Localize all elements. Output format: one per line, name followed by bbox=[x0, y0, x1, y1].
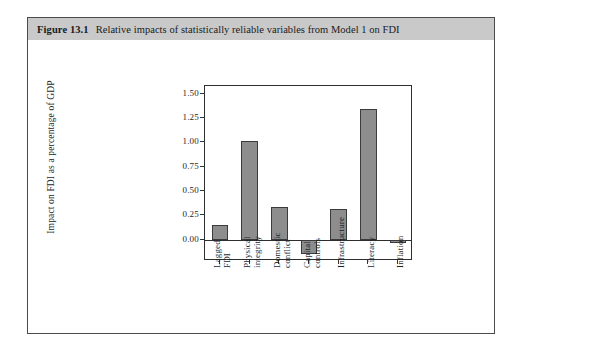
y-axis-tick-label: 1.00 bbox=[165, 136, 199, 146]
chart-axes-box bbox=[204, 85, 412, 260]
y-axis-tick-mark bbox=[200, 117, 204, 118]
y-axis-tick-mark bbox=[200, 166, 204, 167]
y-axis-tick-mark bbox=[200, 214, 204, 215]
y-axis-tick-label: 0.25 bbox=[165, 209, 199, 219]
y-axis-tick-label: 1.50 bbox=[165, 88, 199, 98]
y-axis-tick-labels: 0.000.250.500.751.001.251.50 bbox=[165, 85, 199, 245]
x-axis-tick-label: Physical integrity bbox=[243, 236, 262, 268]
y-axis-tick-mark bbox=[200, 190, 204, 191]
y-axis-tick-mark bbox=[200, 239, 204, 240]
y-axis-tick-mark bbox=[200, 141, 204, 142]
y-axis-tick-label: 0.75 bbox=[165, 161, 199, 171]
y-axis-tick-mark bbox=[200, 93, 204, 94]
x-axis-tick-label: Lagged FDI bbox=[213, 240, 232, 268]
y-axis-tick-label: 0.00 bbox=[165, 234, 199, 244]
figure-caption-band: Figure 13.1 Relative impacts of statisti… bbox=[28, 18, 494, 40]
chart-bar bbox=[212, 225, 229, 240]
x-axis-tick-label: Literacy bbox=[367, 237, 377, 268]
x-axis-tick-label: Domestic conflict bbox=[273, 232, 292, 268]
chart-bar bbox=[360, 109, 377, 239]
y-axis-title: Impact on FDI as a percentage of GDP bbox=[46, 72, 56, 242]
chart-bar bbox=[241, 141, 258, 239]
chart-plot-region: Impact on FDI as a percentage of GDP 0.0… bbox=[28, 40, 494, 333]
x-axis-tick-label: Infrastructure bbox=[337, 217, 347, 268]
y-axis-tick-label: 0.50 bbox=[165, 185, 199, 195]
x-axis-tick-label: Inflation bbox=[396, 236, 406, 268]
y-axis-tick-label: 1.25 bbox=[165, 112, 199, 122]
figure-frame: Figure 13.1 Relative impacts of statisti… bbox=[27, 17, 495, 334]
figure-number: Figure 13.1 bbox=[37, 24, 89, 35]
figure-caption-text: Relative impacts of statistically reliab… bbox=[96, 24, 400, 35]
x-axis-tick-label: Capital controls bbox=[303, 238, 322, 268]
